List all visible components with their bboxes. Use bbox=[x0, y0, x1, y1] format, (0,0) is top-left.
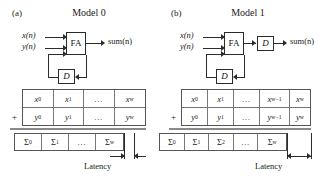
latency-arrow-left-b bbox=[287, 153, 291, 159]
operand-row-y: y0 y1 … yw−1 yw bbox=[182, 107, 310, 125]
operand-cell-ellipsis: … bbox=[234, 108, 260, 125]
sum-cell-ellipsis: … bbox=[234, 134, 259, 150]
wire-carry-out-to-d bbox=[79, 77, 87, 78]
operand-cell: y1 bbox=[208, 108, 234, 125]
signal-label-x: x(n) bbox=[22, 30, 36, 40]
arrow-into-d-register bbox=[233, 74, 237, 80]
wire-carry-out-vertical bbox=[244, 55, 245, 77]
delay-register-feedback: D bbox=[216, 69, 233, 84]
operand-cell-ellipsis: … bbox=[234, 90, 260, 107]
operand-row-x: x0 x1 … xw bbox=[23, 90, 145, 107]
sum-cell: Σw bbox=[96, 134, 123, 150]
arrow-carry-into-fa bbox=[221, 51, 225, 57]
sum-table-model-0: Σ0 Σ1 … Σw bbox=[14, 133, 124, 151]
arrow-sum-output bbox=[101, 40, 105, 46]
wire-feedback-vertical bbox=[48, 54, 49, 77]
operand-row-x: x0 x1 … xw−1 xw bbox=[182, 90, 310, 107]
full-adder-block: FA bbox=[66, 32, 86, 55]
wire-y-to-fa bbox=[203, 48, 223, 49]
operand-cell: xw bbox=[115, 90, 145, 107]
wire-x-to-fa bbox=[203, 37, 223, 38]
delay-register-label: D bbox=[262, 39, 269, 48]
operand-cell: yw bbox=[115, 108, 145, 125]
panel-tag-b: (b) bbox=[171, 8, 182, 18]
latency-tick-right-b bbox=[311, 133, 312, 159]
signal-label-sum: sum(n) bbox=[108, 36, 132, 46]
latency-arrow-right-b bbox=[307, 153, 311, 159]
sum-table-model-1: Σ0 Σ1 Σ2 … Σw bbox=[159, 133, 287, 151]
operand-cell-ellipsis: … bbox=[84, 90, 115, 107]
signal-label-y: y(n) bbox=[180, 41, 194, 51]
arrow-carry-into-fa bbox=[63, 51, 67, 57]
latency-arrow-right-a bbox=[121, 153, 125, 159]
operand-cell: xw−1 bbox=[260, 90, 290, 107]
latency-line-a2 bbox=[138, 156, 146, 157]
latency-label-a: Latency bbox=[84, 161, 111, 171]
signal-label-y: y(n) bbox=[22, 41, 36, 51]
operand-row-y: y0 y1 … yw bbox=[23, 107, 145, 125]
operand-cell: y0 bbox=[182, 108, 208, 125]
operand-cell-ellipsis: … bbox=[84, 108, 115, 125]
arrow-x-into-fa bbox=[221, 34, 225, 40]
arrow-sum-output bbox=[283, 40, 287, 46]
operand-table-model-0: x0 x1 … xw y0 y1 … yw bbox=[22, 89, 146, 126]
plus-operator-a: + bbox=[12, 112, 17, 122]
wire-carry-out-vertical bbox=[86, 55, 87, 77]
operand-cell: x0 bbox=[23, 90, 54, 107]
latency-label-b: Latency bbox=[255, 161, 282, 171]
full-adder-block: FA bbox=[224, 32, 244, 55]
wire-carry-out-to-d bbox=[237, 77, 245, 78]
wire-y-to-fa bbox=[45, 48, 65, 49]
sum-divider-b bbox=[169, 128, 311, 130]
sum-cell: Σ0 bbox=[15, 134, 42, 150]
operand-cell: x1 bbox=[54, 90, 85, 107]
delay-register-feedback: D bbox=[58, 69, 75, 84]
figure-root: (a) Model 0 x(n) y(n) FA bbox=[0, 0, 318, 184]
panel-tag-a: (a) bbox=[12, 8, 22, 18]
wire-x-to-fa bbox=[45, 37, 65, 38]
operand-table-model-1: x0 x1 … xw−1 xw y0 y1 … yw−1 yw bbox=[181, 89, 311, 126]
panel-model-0: (a) Model 0 x(n) y(n) FA bbox=[0, 0, 159, 184]
operand-cell: y1 bbox=[54, 108, 85, 125]
block-diagram-model-0: x(n) y(n) FA sum(n) bbox=[0, 22, 159, 84]
sum-divider-a bbox=[10, 128, 146, 130]
operand-cell: xw bbox=[290, 90, 310, 107]
full-adder-label: FA bbox=[71, 39, 82, 48]
plus-operator-b: + bbox=[171, 112, 176, 122]
signal-label-sum: sum(n) bbox=[290, 36, 314, 46]
arrow-into-d-register bbox=[75, 74, 79, 80]
panel-title-model-1: Model 1 bbox=[203, 7, 293, 18]
sum-cell: Σ1 bbox=[42, 134, 69, 150]
sum-cell: Σw bbox=[258, 134, 286, 150]
sum-cell: Σ1 bbox=[185, 134, 210, 150]
signal-label-x: x(n) bbox=[180, 30, 194, 40]
delay-register-label: D bbox=[63, 72, 70, 81]
full-adder-label: FA bbox=[229, 39, 240, 48]
delay-register-label: D bbox=[221, 72, 228, 81]
delay-register-output: D bbox=[257, 36, 274, 51]
operand-cell: x1 bbox=[208, 90, 234, 107]
arrow-x-into-fa bbox=[63, 34, 67, 40]
panel-model-1: (b) Model 1 x(n) y(n) FA bbox=[159, 0, 318, 184]
arrow-into-output-register bbox=[252, 40, 256, 46]
sum-cell: Σ0 bbox=[160, 134, 185, 150]
operand-cell: y0 bbox=[23, 108, 54, 125]
block-diagram-model-1: x(n) y(n) FA D bbox=[159, 22, 318, 84]
operand-cell: yw bbox=[290, 108, 310, 125]
sum-cell-ellipsis: … bbox=[69, 134, 96, 150]
operand-cell: yw−1 bbox=[260, 108, 290, 125]
wire-feedback-to-fa bbox=[206, 54, 222, 55]
wire-feedback-vertical bbox=[206, 54, 207, 77]
sum-cell: Σ2 bbox=[209, 134, 234, 150]
wire-feedback-to-fa bbox=[48, 54, 64, 55]
operand-cell: x0 bbox=[182, 90, 208, 107]
panel-title-model-0: Model 0 bbox=[44, 7, 134, 18]
